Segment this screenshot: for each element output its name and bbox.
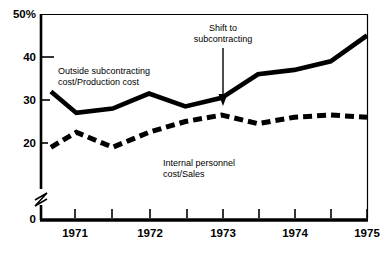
dashed-series-label: Internal personnel cost/Sales [163,158,235,179]
y-tick-label-50: 50% [13,8,36,20]
x-tick-label-1971: 1971 [62,227,88,239]
x-axis-ticks [75,209,367,218]
x-tick-label-1972: 1972 [137,227,163,239]
y-axis-break-icon [35,193,47,206]
x-tick-label-1973: 1973 [210,227,236,239]
dashed-series-label-line1: Internal personnel [163,158,235,168]
solid-series-label-line2: cost/Production cost [58,77,140,87]
x-tick-label-1974: 1974 [282,227,308,239]
x-tick-label-1975: 1975 [354,227,380,239]
y-tick-label-40: 40 [23,51,36,63]
chart-container: 50% 40 30 20 0 1971 1972 1973 1974 1975 [0,0,392,259]
y-tick-label-30: 30 [23,94,36,106]
x-axis-tick-labels: 1971 1972 1973 1974 1975 [62,227,380,239]
solid-series-label: Outside subcontracting cost/Production c… [58,66,150,87]
y-tick-label-0: 0 [30,213,36,225]
y-axis-tick-labels: 50% 40 30 20 0 [13,8,36,225]
line-chart: 50% 40 30 20 0 1971 1972 1973 1974 1975 [0,0,392,259]
annotation-arrow-down-icon [219,48,228,106]
annotation-line1: Shift to [209,23,237,33]
solid-series-label-line1: Outside subcontracting [58,66,150,76]
shift-to-subcontracting-annotation: Shift to subcontracting [194,23,253,106]
annotation-line2: subcontracting [194,34,253,44]
dashed-series-label-line2: cost/Sales [163,169,205,179]
y-axis-ticks [41,57,54,143]
series-line-internal-personnel [51,115,367,147]
y-tick-label-20: 20 [23,137,36,149]
